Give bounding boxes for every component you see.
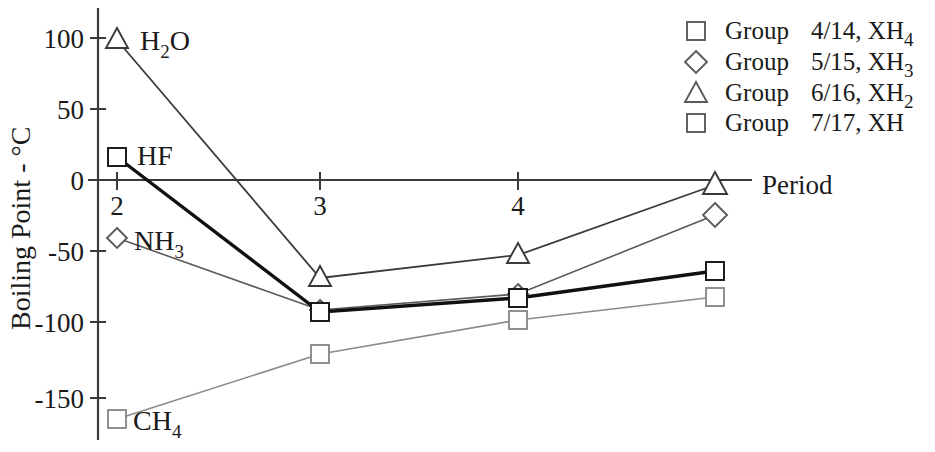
annotation-h2o: H2O [140,25,190,62]
legend-label-group-7-17: Group7/17, XH [725,109,904,136]
legend-marker-triangle-icon [685,82,707,102]
y-tick-label-neg100: -100 [35,308,85,338]
data-point-h2te [703,172,727,194]
legend-marker-square-icon [687,22,705,40]
y-tick-label-100: 100 [44,24,85,54]
legend: Group4/14, XH4 Group5/15, XH3 Group6/16,… [685,17,914,136]
x-tick-label-2: 2 [110,191,124,221]
annotation-hf: HF [137,140,173,171]
annotation-ch4: CH4 [133,405,182,442]
data-point-hf [108,148,126,166]
y-tick-label-neg50: -50 [48,237,84,267]
series-group-7-17 [108,148,724,321]
x-tick-label-3: 3 [313,191,327,221]
data-point-geh4 [509,311,527,329]
data-point-h2o [106,28,128,48]
boiling-point-chart: 100 50 0 -50 -100 -150 2 3 4 Boiling Poi… [0,0,935,452]
x-tick-label-4: 4 [511,191,525,221]
series-line-group-5-15 [117,215,715,310]
data-point-snh4 [706,288,724,306]
data-point-ch4 [108,410,126,428]
axis-group [88,8,752,440]
series-group-4-14 [108,288,724,428]
series-line-group-4-14 [117,297,715,419]
legend-row-group-6-16[interactable]: Group6/16, XH2 [685,79,913,112]
y-tick-label-neg150: -150 [35,384,85,414]
data-point-sbh3 [703,203,727,227]
data-point-hi [706,262,724,280]
data-point-hcl [311,303,329,321]
legend-marker-diamond-icon [685,51,707,73]
data-point-nh3 [107,228,127,248]
legend-label-group-5-15: Group5/15, XH3 [725,48,913,81]
legend-row-group-5-15[interactable]: Group5/15, XH3 [685,48,913,81]
legend-row-group-7-17[interactable]: Group7/17, XH [687,109,904,136]
series-line-group-6-16 [117,40,715,278]
annotation-nh3: NH3 [134,225,184,262]
legend-label-group-4-14: Group4/14, XH4 [725,17,914,50]
x-axis-title: Period [762,170,833,200]
legend-label-group-6-16: Group6/16, XH2 [725,79,913,112]
y-axis-title: Boiling Point - °C [5,127,36,330]
legend-marker-square2-icon [687,114,705,132]
y-tick-label-0: 0 [71,166,85,196]
data-point-hbr [509,289,527,307]
y-tick-label-50: 50 [57,95,84,125]
chart-canvas: 100 50 0 -50 -100 -150 2 3 4 Boiling Poi… [0,0,935,452]
legend-row-group-4-14[interactable]: Group4/14, XH4 [687,17,914,50]
data-point-sih4 [311,345,329,363]
